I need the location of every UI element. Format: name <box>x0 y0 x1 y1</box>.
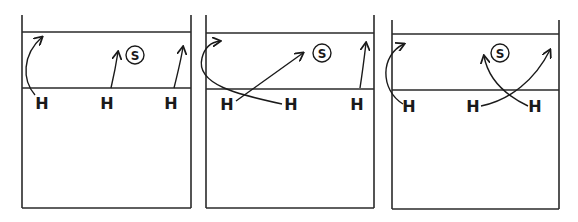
setter-marker: S <box>491 44 509 62</box>
approach-arrow <box>360 43 366 88</box>
setter-label: S <box>496 47 505 61</box>
court-3: SHHH <box>386 20 559 209</box>
hitter-label: H <box>528 97 541 116</box>
hitter-label: H <box>35 94 48 113</box>
setter-label: S <box>318 47 327 61</box>
court-1: SHHH <box>22 15 191 208</box>
hitter-label: H <box>466 97 479 116</box>
approach-arrow <box>484 56 528 106</box>
approach-arrow <box>111 52 118 88</box>
hitter-label: H <box>164 94 177 113</box>
hitter-label: H <box>350 95 363 114</box>
setter-marker: S <box>313 44 331 62</box>
hitter-label: H <box>220 95 233 114</box>
setter-marker: S <box>126 46 144 64</box>
setter-label: S <box>131 49 140 63</box>
hitter-label: H <box>284 95 297 114</box>
court-2: SHHH <box>201 15 374 208</box>
volleyball-court-diagrams: SHHHSHHHSHHH <box>0 0 578 222</box>
approach-arrow <box>386 44 404 104</box>
approach-arrow <box>174 47 183 88</box>
hitter-label: H <box>100 94 113 113</box>
approach-arrow <box>26 37 42 95</box>
approach-arrow <box>201 41 282 104</box>
approach-arrow <box>236 53 303 101</box>
hitter-label: H <box>402 97 415 116</box>
